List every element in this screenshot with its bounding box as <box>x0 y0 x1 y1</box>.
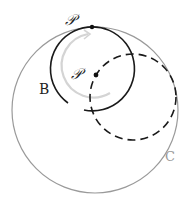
point-p-top <box>90 25 94 29</box>
label-p-center: 𝒫 <box>71 65 86 83</box>
label-p-top: 𝒫 <box>65 11 80 29</box>
point-p-center <box>94 73 99 78</box>
diagram-canvas: 𝒫 𝒫 B C <box>0 0 185 198</box>
label-c: C <box>165 149 175 164</box>
label-b: B <box>39 81 49 97</box>
rotation-arrow-icon <box>62 30 110 97</box>
